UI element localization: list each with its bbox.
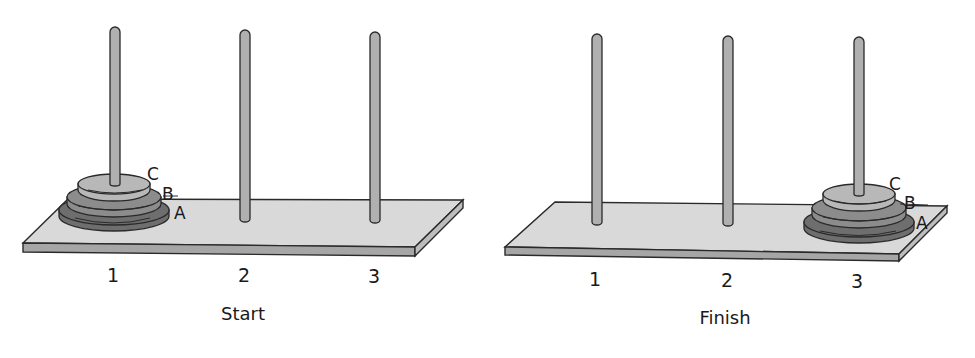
- disk-label-b: B: [904, 193, 916, 213]
- peg-label-2: 2: [721, 269, 733, 291]
- start-panel: C B A 1 2 3 Start: [23, 27, 463, 324]
- peg-2: [723, 36, 733, 226]
- disk-label-a: A: [174, 203, 186, 223]
- peg-label-3: 3: [368, 265, 380, 287]
- peg-label-1: 1: [107, 264, 119, 286]
- peg-1: [110, 27, 120, 186]
- disk-label-a: A: [916, 213, 928, 233]
- peg-label-2: 2: [238, 264, 250, 286]
- tower-of-hanoi-diagram: C B A 1 2 3 Start: [0, 0, 975, 358]
- peg-label-3: 3: [851, 270, 863, 292]
- disk-label-c: C: [889, 174, 901, 194]
- peg-2: [240, 30, 250, 222]
- peg-label-1: 1: [589, 268, 601, 290]
- caption-finish: Finish: [699, 307, 750, 328]
- peg-3: [370, 32, 380, 223]
- peg-3: [854, 37, 864, 196]
- caption-start: Start: [221, 303, 265, 324]
- disk-label-b: B: [162, 184, 174, 204]
- peg-1: [592, 34, 602, 225]
- disk-label-c: C: [147, 164, 159, 184]
- finish-panel: C B A 1 2 3 Finish: [505, 34, 947, 328]
